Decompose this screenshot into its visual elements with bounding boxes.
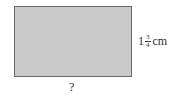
height-fraction: 3 4 — [145, 34, 151, 49]
width-label: ? — [69, 80, 74, 95]
fraction-denominator: 4 — [146, 42, 150, 49]
height-unit: cm — [153, 34, 168, 49]
height-label: 1 3 4 cm — [138, 34, 167, 49]
height-whole: 1 — [138, 34, 144, 49]
rectangle — [14, 6, 132, 77]
